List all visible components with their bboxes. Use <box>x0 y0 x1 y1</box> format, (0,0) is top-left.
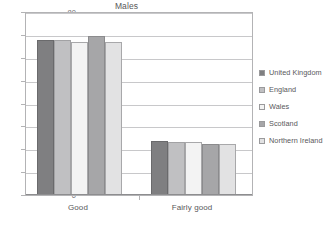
legend-item-label: England <box>269 85 296 94</box>
bar <box>88 36 105 194</box>
legend-swatch-icon <box>259 87 265 93</box>
legend-item[interactable]: Scotland <box>259 115 323 132</box>
axis-baseline <box>26 194 252 195</box>
bar <box>219 144 236 194</box>
chart-container: Males 01020304050607080 GoodFairly good … <box>0 0 335 229</box>
bar <box>37 40 54 194</box>
bar <box>105 42 122 194</box>
bar-group <box>151 11 236 194</box>
bar <box>185 142 202 194</box>
legend-item[interactable]: Northern Ireland <box>259 132 323 149</box>
bar <box>54 40 71 194</box>
bar <box>168 142 185 194</box>
legend-item-label: United Kingdom <box>269 68 322 77</box>
legend-item[interactable]: United Kingdom <box>259 64 323 81</box>
x-axis-tick-label: Good <box>28 203 128 212</box>
plot-area <box>25 12 253 196</box>
bar <box>71 42 88 194</box>
legend-item[interactable]: England <box>259 81 323 98</box>
legend-swatch-icon <box>259 138 265 144</box>
x-axis-tick-label: Fairly good <box>142 203 242 212</box>
legend-swatch-icon <box>259 121 265 127</box>
legend-item-label: Wales <box>269 102 289 111</box>
bar <box>151 141 168 194</box>
bar <box>202 144 219 194</box>
legend-item[interactable]: Wales <box>259 98 323 115</box>
legend-item-label: Scotland <box>269 119 298 128</box>
chart-legend: United KingdomEnglandWalesScotlandNorthe… <box>259 64 323 149</box>
chart-title: Males <box>0 1 253 11</box>
legend-swatch-icon <box>259 70 265 76</box>
legend-item-label: Northern Ireland <box>269 136 323 145</box>
legend-swatch-icon <box>259 104 265 110</box>
bar-group <box>37 11 122 194</box>
x-axis-tick-mark <box>139 196 140 200</box>
